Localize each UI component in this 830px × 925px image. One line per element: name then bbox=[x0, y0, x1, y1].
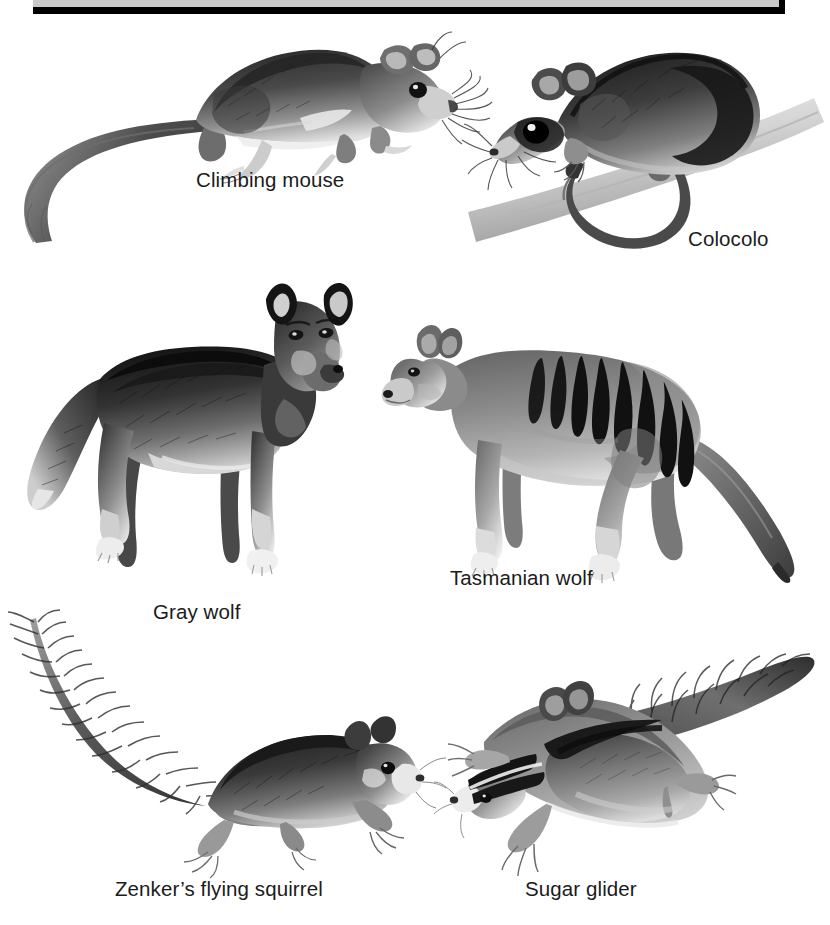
caption-climbing-mouse: Climbing mouse bbox=[196, 168, 344, 192]
caption-zenkers-flying-squirrel: Zenker’s flying squirrel bbox=[115, 877, 323, 901]
tasmanian-wolf-illustration bbox=[392, 310, 830, 595]
colocolo-illustration bbox=[462, 30, 830, 265]
top-banner-bar bbox=[33, 0, 785, 14]
sugar-glider-illustration bbox=[448, 648, 830, 880]
caption-sugar-glider: Sugar glider bbox=[525, 877, 637, 901]
gray-wolf-illustration bbox=[8, 283, 358, 593]
zenkers-flying-squirrel-illustration bbox=[8, 612, 418, 867]
caption-colocolo: Colocolo bbox=[688, 227, 769, 251]
caption-tasmanian-wolf: Tasmanian wolf bbox=[450, 566, 593, 590]
climbing-mouse-illustration bbox=[0, 28, 470, 243]
convergent-evolution-figure: Climbing mouse bbox=[0, 0, 830, 925]
